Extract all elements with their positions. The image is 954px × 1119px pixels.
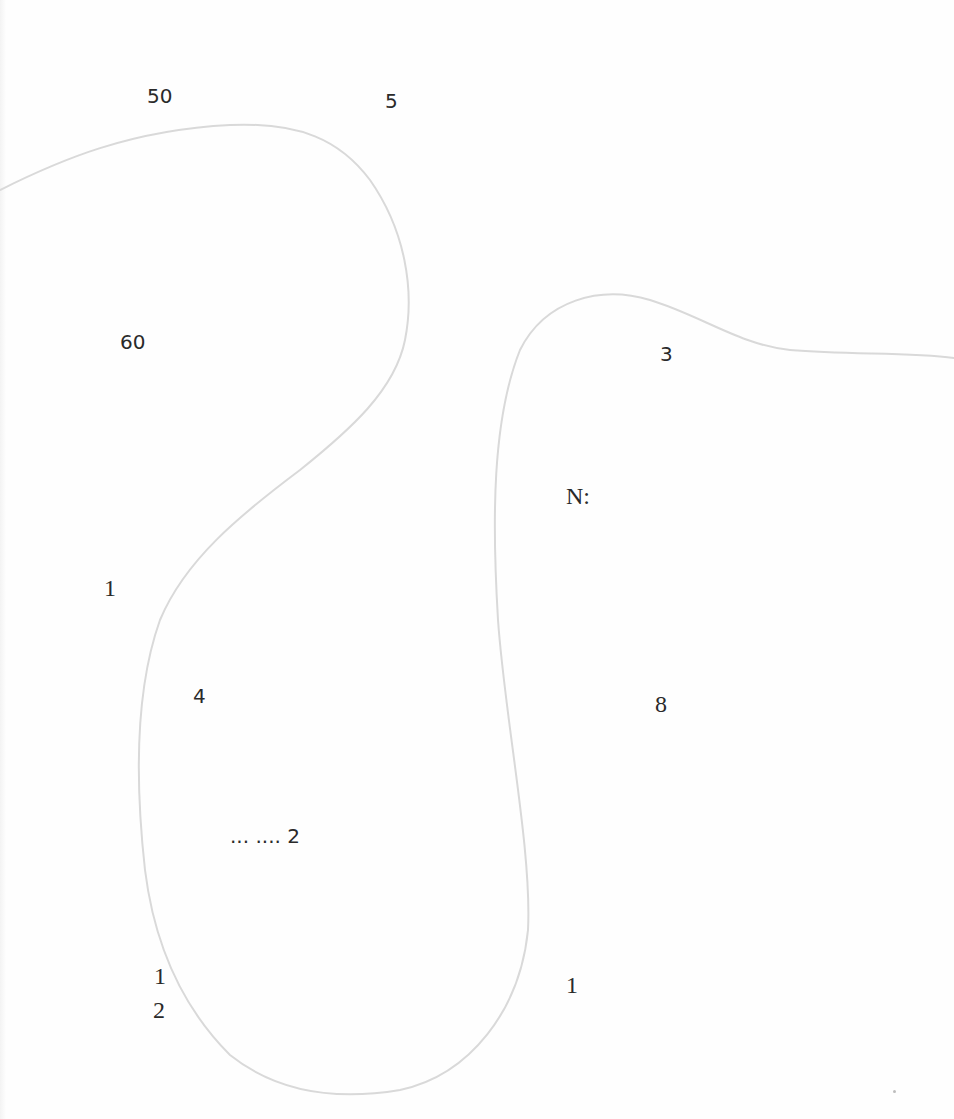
- label-2-bottom: 2: [153, 998, 165, 1022]
- label-3: 3: [660, 344, 673, 364]
- label-n: N:: [566, 484, 590, 508]
- label-4: 4: [193, 686, 206, 706]
- label-1-right: 1: [566, 973, 578, 997]
- hand-drawn-curve: [0, 0, 954, 1119]
- label-8: 8: [655, 692, 667, 716]
- label-dots-2: ... .... 2: [230, 826, 300, 846]
- label-50: 50: [147, 86, 172, 106]
- label-5: 5: [385, 91, 398, 111]
- label-1-bottom: 1: [154, 964, 166, 988]
- label-1-left: 1: [104, 576, 116, 600]
- label-60: 60: [120, 332, 145, 352]
- speck-mark: [893, 1090, 896, 1093]
